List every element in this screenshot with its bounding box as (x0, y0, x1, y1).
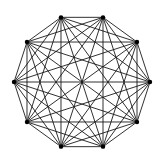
graph-vertex (101, 144, 105, 148)
graph-vertex (25, 40, 29, 44)
graph-edge (61, 122, 137, 147)
graph-vertex (59, 144, 63, 148)
graph-edge (27, 82, 150, 122)
graph-vertex (148, 80, 152, 84)
graph-edge (14, 82, 27, 122)
graph-vertex (25, 120, 29, 124)
graph-edge (103, 17, 137, 42)
graph-vertex (135, 40, 139, 44)
graph-vertex (12, 80, 16, 84)
graph-edge (14, 42, 137, 82)
complete-graph-diagram (0, 0, 161, 163)
graph-vertex (101, 15, 105, 19)
graph-edge (27, 122, 103, 147)
graph-edge (137, 42, 150, 82)
graph-edge (137, 82, 150, 122)
graph-edge (14, 42, 27, 82)
graph-edge (27, 42, 150, 82)
graph-edge (27, 42, 61, 147)
graph-vertex (135, 120, 139, 124)
graph-edge (14, 82, 137, 122)
graph-edge (27, 17, 61, 42)
graph-edge (14, 82, 61, 147)
graph-vertex (59, 15, 63, 19)
graph-edges (14, 17, 150, 146)
graph-edge (27, 122, 61, 147)
graph-edge (27, 42, 103, 147)
graph-edge (27, 17, 103, 42)
graph-edge (103, 122, 137, 147)
